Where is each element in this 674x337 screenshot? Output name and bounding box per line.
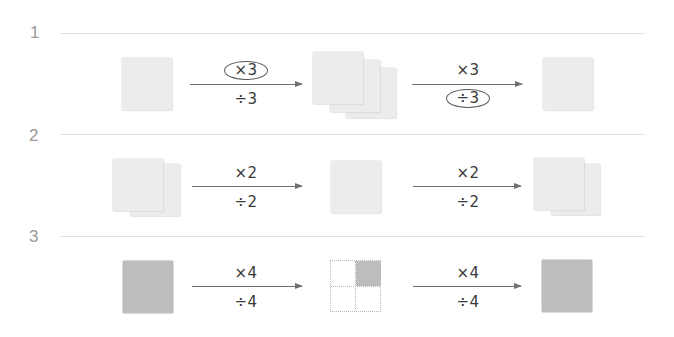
operation-bottom: ÷4: [190, 293, 302, 311]
arrow-right: [412, 84, 522, 85]
operation-bottom: ÷3: [412, 89, 524, 108]
arrow-right: [413, 186, 521, 187]
row-number-3: 3: [29, 228, 38, 245]
operation-bottom: ÷4: [412, 293, 524, 311]
operation-top: ×3: [412, 61, 524, 79]
shaded-quarter: [356, 261, 381, 286]
stacked-square-front: [113, 159, 163, 211]
shaded-square: [123, 261, 173, 313]
arrowhead-icon: [514, 183, 522, 189]
arrowhead-icon: [515, 81, 523, 87]
shaded-square: [542, 260, 592, 312]
row-divider-2: [60, 134, 645, 135]
stacked-square-front: [534, 158, 584, 210]
arrow-right: [413, 286, 521, 287]
stacked-square-front: [313, 52, 363, 104]
operation-bottom: ÷2: [190, 193, 302, 211]
row-number-1: 1: [30, 24, 39, 41]
arrowhead-icon: [295, 183, 303, 189]
operation-top: ×4: [190, 264, 302, 282]
grid-horizontal-line: [331, 286, 380, 287]
arrow-right: [190, 84, 302, 85]
arrowhead-icon: [295, 283, 303, 289]
row-divider-3: [60, 236, 645, 237]
quarter-grid: [330, 260, 381, 312]
arrow-right: [192, 186, 302, 187]
arrowhead-icon: [295, 81, 303, 87]
circled-operation: ÷3: [446, 89, 489, 108]
operation-top: ×2: [412, 164, 524, 182]
single-square: [122, 58, 172, 110]
circled-operation: ×3: [224, 61, 267, 80]
operation-top: ×3: [190, 61, 302, 80]
arrowhead-icon: [514, 283, 522, 289]
arrow-right: [192, 286, 302, 287]
operation-top: ×4: [412, 264, 524, 282]
row-number-2: 2: [29, 127, 38, 144]
single-square: [331, 161, 381, 213]
row-divider-1: [60, 33, 645, 34]
operation-top: ×2: [190, 164, 302, 182]
operation-bottom: ÷2: [412, 193, 524, 211]
operation-bottom: ÷3: [190, 90, 302, 108]
single-square: [543, 58, 593, 110]
